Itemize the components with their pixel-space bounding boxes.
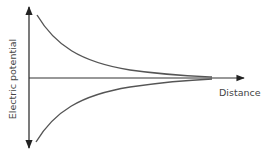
positive-potential-curve bbox=[37, 15, 212, 77]
x-axis-label: Distance bbox=[219, 87, 261, 98]
y-axis-label: Electric potential bbox=[7, 39, 18, 119]
negative-potential-curve bbox=[36, 79, 212, 142]
electric-potential-diagram: Electric potential Distance bbox=[0, 0, 266, 155]
